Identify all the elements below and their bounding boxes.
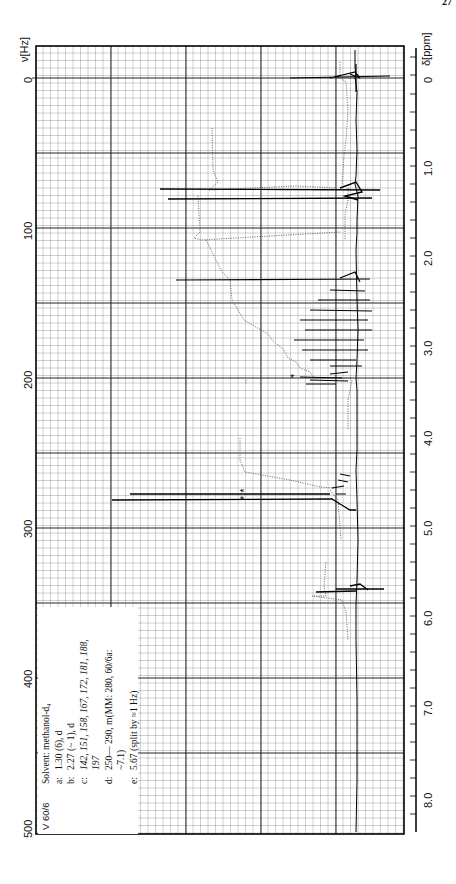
ppm-tick-4: 4.0 xyxy=(422,431,434,446)
hz-axis-label: ν[Hz] xyxy=(18,37,30,62)
solvent: Solvent: methanol-d₄ xyxy=(40,703,53,784)
legend-header: V 60/6 Solvent: methanol-d₄ xyxy=(40,611,53,830)
ppm-tick-0: 0 xyxy=(422,77,434,83)
ppm-tick-3: 3.0 xyxy=(422,341,434,356)
legend-text-d: 250— 290, m(MM: 280, 60/6a: xyxy=(103,611,116,770)
ppm-tick-5: 5.0 xyxy=(422,521,434,536)
hz-tick-100: 100 xyxy=(22,222,34,240)
ppm-tick-7: 7.0 xyxy=(422,701,434,716)
legend-key-a: a: xyxy=(53,770,66,784)
legend-entry-d: d: 250— 290, m(MM: 280, 60/6a: xyxy=(103,611,116,830)
double-star-annotation: * * xyxy=(238,488,250,500)
legend-entry-a: a: 1.30 (6), d xyxy=(53,611,66,830)
single-star-annotation: * xyxy=(290,372,295,384)
legend-entry-d-cont: ~7.1) xyxy=(115,611,128,830)
hz-tick-500: 500 xyxy=(22,820,34,838)
legend-key-e: e: xyxy=(128,770,141,784)
ppm-axis xyxy=(410,48,416,832)
legend-entry-c-cont: 197 xyxy=(90,611,103,830)
legend-key-c: c: xyxy=(78,770,91,784)
legend-text-a: 1.30 (6), d xyxy=(53,611,66,770)
legend-entry-b: b: 2.27 (~ 1), d xyxy=(65,611,78,830)
spectrum-id: V 60/6 xyxy=(40,784,53,830)
ppm-tick-6: 6.0 xyxy=(422,611,434,626)
legend-text-e: 5.67 (split by ≈1 Hz) xyxy=(128,611,141,770)
legend-text-b: 2.27 (~ 1), d xyxy=(65,611,78,770)
legend-key-d: d: xyxy=(103,770,116,784)
hz-tick-200: 200 xyxy=(22,371,34,389)
ppm-axis-label: δ[ppm] xyxy=(420,32,432,66)
legend-key-b: b: xyxy=(65,770,78,784)
hz-tick-300: 300 xyxy=(22,520,34,538)
legend-text-d-cont: ~7.1) xyxy=(115,611,128,770)
legend-text-c-cont: 197 xyxy=(90,611,103,770)
ppm-tick-2: 2.0 xyxy=(422,251,434,266)
legend-entry-c: c: 142, 151, 158, 167, 172, 181, 188, xyxy=(78,611,91,830)
hz-tick-400: 400 xyxy=(22,670,34,688)
legend-box: V 60/6 Solvent: methanol-d₄ a: 1.30 (6),… xyxy=(38,607,138,834)
hz-tick-0: 0 xyxy=(22,77,34,83)
legend-text-c: 142, 151, 158, 167, 172, 181, 188, xyxy=(78,611,91,770)
ppm-tick-1: 1.0 xyxy=(422,161,434,176)
ppm-tick-8: 8.0 xyxy=(422,793,434,808)
legend-entry-e: e: 5.67 (split by ≈1 Hz) xyxy=(128,611,141,830)
